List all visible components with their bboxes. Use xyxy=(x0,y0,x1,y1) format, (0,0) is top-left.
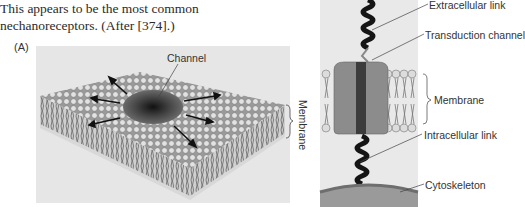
intracellular-link-icon xyxy=(357,136,367,184)
intracellular-link-label: Intracellular link xyxy=(424,129,497,141)
cytoskeleton-label: Cytoskeleton xyxy=(425,179,486,191)
membrane-label-b: Membrane xyxy=(434,94,484,106)
extracellular-link-icon xyxy=(363,0,373,48)
membrane-brace-b-icon xyxy=(423,74,431,124)
extracellular-link-label: Extracellular link xyxy=(429,0,505,11)
transduction-channel-label: Transduction channel xyxy=(425,29,525,41)
